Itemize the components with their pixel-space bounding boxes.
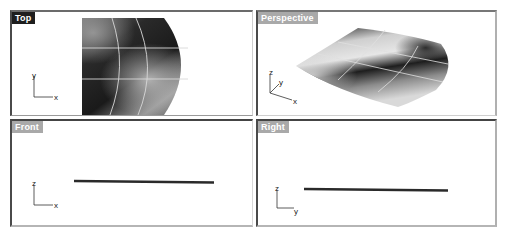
axis-label-vertical: z	[32, 179, 36, 188]
axis-indicator-front: z x	[29, 178, 69, 214]
axis-indicator-perspective: z y x	[264, 67, 308, 107]
axis-label-horizontal: x	[54, 201, 58, 210]
viewport-label-front[interactable]: Front	[12, 121, 43, 133]
axis-lines	[34, 185, 53, 205]
axis-label-horizontal: y	[294, 207, 298, 216]
axis-label-horizontal: x	[293, 97, 297, 106]
viewport-label-right[interactable]: Right	[258, 121, 289, 133]
axis-lines	[277, 190, 294, 208]
axis-label-horizontal: x	[54, 93, 58, 102]
surface-edge-curve[interactable]	[74, 181, 214, 183]
surface-edge-curve[interactable]	[304, 189, 448, 191]
viewport-label-perspective[interactable]: Perspective	[258, 12, 318, 24]
axis-lines	[34, 76, 53, 97]
viewport-grid: Top y x	[10, 10, 497, 228]
viewport-front[interactable]: Front z x	[10, 119, 253, 227]
axis-indicator-top: y x	[29, 70, 69, 106]
viewport-label-top[interactable]: Top	[12, 12, 35, 24]
viewport-perspective[interactable]: Perspective z y x	[256, 10, 497, 116]
axis-label-vertical: z	[275, 184, 279, 193]
viewport-right[interactable]: Right z y	[256, 119, 497, 227]
axis-label-vertical: z	[269, 68, 273, 77]
axis-indicator-right: z y	[272, 183, 312, 219]
axis-label-vertical: y	[32, 71, 36, 80]
axis-label-depth: y	[279, 78, 283, 87]
viewport-top[interactable]: Top y x	[10, 10, 253, 116]
